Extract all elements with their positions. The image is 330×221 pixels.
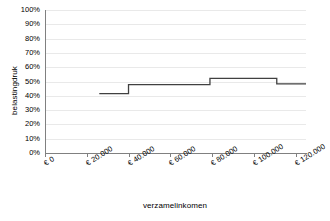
y-axis-line: [45, 10, 46, 154]
y-tick-label: 30%: [2, 106, 40, 114]
plot-area: [45, 10, 306, 153]
y-tick-label: 0%: [2, 149, 40, 157]
y-tick-label: 50%: [2, 78, 40, 86]
data-series-step-line: [45, 10, 306, 153]
y-tick-label: 100%: [2, 6, 40, 14]
y-tick-label: 60%: [2, 63, 40, 71]
chart-container: belastingdruk verzamelinkomen 0%10%20%30…: [0, 0, 330, 221]
y-tick-label: 70%: [2, 49, 40, 57]
y-tick-label: 90%: [2, 20, 40, 28]
y-tick-label: 10%: [2, 135, 40, 143]
y-tick-label: 80%: [2, 35, 40, 43]
y-tick-label: 20%: [2, 120, 40, 128]
series-line: [99, 78, 306, 93]
y-tick-label: 40%: [2, 92, 40, 100]
